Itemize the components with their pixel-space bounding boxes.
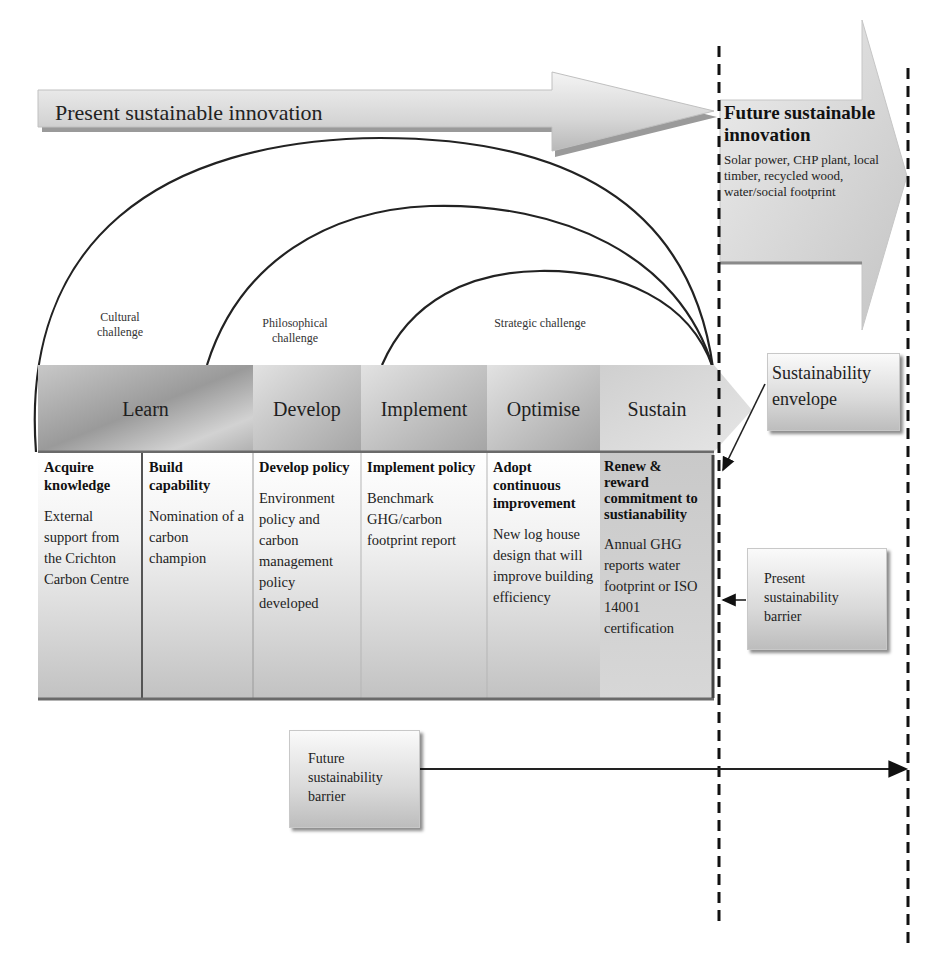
strategic-challenge-label: Strategic challenge (465, 316, 615, 331)
present-barrier-callout: Present sustainability barrier (747, 548, 887, 650)
future-innovation-title: Future sustainable innovation (724, 102, 904, 146)
philosophical-challenge-label: Philosophical challenge (240, 316, 350, 346)
cell-renew-reward: Renew & reward commitment to sustianabil… (600, 452, 714, 698)
stage-learn: Learn (38, 366, 253, 452)
stage-sustain: Sustain (600, 366, 714, 452)
future-innovation-description: Solar power, CHP plant, local timber, re… (724, 152, 904, 200)
cell-build-capability: Build capability Nomination of a carbon … (143, 452, 253, 698)
stage-implement: Implement (361, 366, 487, 452)
future-innovation-text: Future sustainable innovation Solar powe… (724, 102, 904, 200)
cell-develop-policy: Develop policy Environment policy and ca… (253, 452, 361, 698)
present-innovation-label: Present sustainable innovation (55, 100, 323, 126)
sustainability-envelope-callout: Sustainability envelope (767, 353, 900, 431)
cell-acquire-knowledge: Acquire knowledge External support from … (38, 452, 142, 698)
cultural-challenge-label: Cultural challenge (75, 310, 165, 340)
future-barrier-callout: Future sustainability barrier (289, 730, 420, 828)
cell-implement-policy: Implement policy Benchmark GHG/carbon fo… (361, 452, 487, 698)
cell-continuous-improvement: Adopt continuous improvement New log hou… (487, 452, 600, 698)
stage-optimise: Optimise (487, 366, 600, 452)
stage-develop: Develop (253, 366, 361, 452)
